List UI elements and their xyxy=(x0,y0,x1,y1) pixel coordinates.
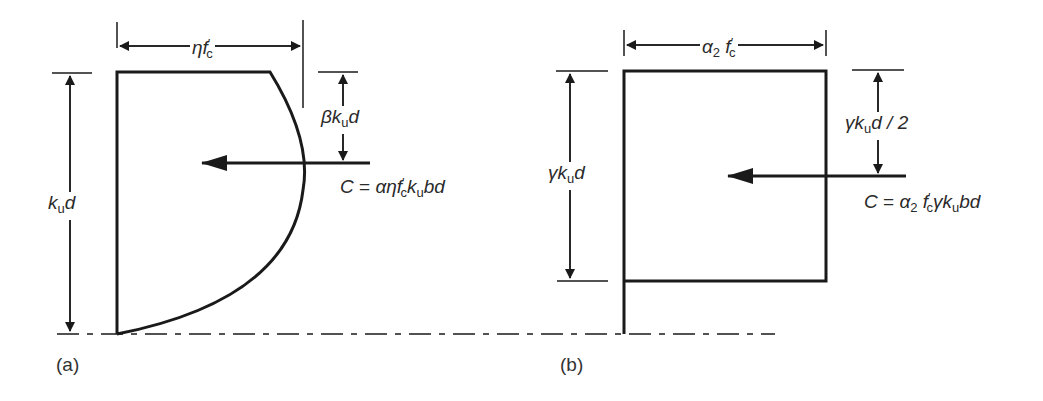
panel-b xyxy=(556,30,906,334)
b-depth-label: γkud xyxy=(546,162,587,190)
b-width-label: α2 f′c xyxy=(700,32,738,64)
a-width-label: ηf′c xyxy=(190,33,215,65)
b-force-label: C = α2 f′cγkubd xyxy=(862,187,982,219)
panel-a xyxy=(52,20,370,334)
a-depth-label: kud xyxy=(46,192,77,220)
panel-b-caption: (b) xyxy=(560,354,583,376)
panel-a-caption: (a) xyxy=(56,354,79,376)
a-force-label: C = αηf′ckubd xyxy=(338,172,447,204)
b-centroid-label: γkud / 2 xyxy=(843,112,910,140)
parabolic-stress-block xyxy=(117,72,305,334)
rectangular-stress-block xyxy=(624,71,826,334)
a-centroid-label: βkud xyxy=(319,106,361,134)
